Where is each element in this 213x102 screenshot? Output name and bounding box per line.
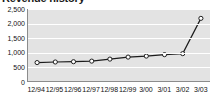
data-point-marker: [35, 60, 39, 64]
gridline: [28, 24, 210, 25]
gridline: [28, 67, 210, 68]
x-axis-tick-label: 12/95: [46, 86, 64, 94]
y-axis-tick-label: 500: [0, 64, 25, 71]
x-axis-tick-label: 12/97: [82, 86, 100, 94]
data-point-marker: [126, 55, 130, 59]
y-axis-tick-label: 1,000: [0, 49, 25, 56]
y-axis-tick-label: 0: [0, 79, 25, 86]
y-axis-tick-label: 2,000: [0, 20, 25, 27]
revenue-history-chart: Revenue history 05001,0001,5002,0002,500…: [0, 0, 213, 102]
gridline: [28, 38, 210, 39]
x-axis-tick-label: 3/00: [139, 86, 153, 94]
y-axis-tick-label: 1,500: [0, 35, 25, 42]
plot-area: [27, 9, 210, 82]
x-axis-tick-label: 3/03: [194, 86, 208, 94]
x-axis-tick-label: 3/02: [176, 86, 190, 94]
x-axis-tick-label: 3/01: [157, 86, 171, 94]
x-axis-tick-label: 12/99: [119, 86, 137, 94]
x-axis-tick-label: 12/96: [64, 86, 82, 94]
x-axis-tick-label: 12/98: [101, 86, 119, 94]
data-point-marker: [53, 60, 57, 64]
data-point-marker: [71, 60, 75, 64]
data-point-marker: [199, 16, 203, 20]
y-axis: 05001,0001,5002,0002,500: [0, 0, 25, 102]
gridline: [28, 9, 210, 10]
data-point-marker: [108, 57, 112, 61]
y-axis-tick-label: 2,500: [0, 6, 25, 13]
x-axis-tick-label: 12/94: [27, 86, 45, 94]
gridline: [28, 53, 210, 54]
data-point-marker: [144, 54, 148, 58]
data-point-marker: [90, 59, 94, 63]
revenue-series: [28, 9, 210, 81]
series-line: [37, 18, 201, 62]
x-axis: 12/9412/9512/9612/9712/9812/993/003/013/…: [27, 86, 210, 98]
